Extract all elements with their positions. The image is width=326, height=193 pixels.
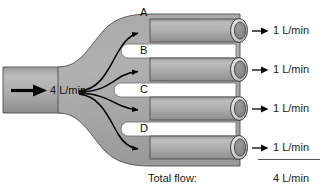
total-flow-label: Total flow: (148, 173, 197, 184)
branch-letter-c: C (140, 84, 148, 95)
figure-canvas: 4 L/min A B C D 1 L/min 1 L/min 1 L/min … (0, 0, 326, 193)
branch-letter-d: D (140, 123, 148, 134)
separator-slot-ab (121, 44, 236, 58)
outlet-arrow-d (252, 145, 269, 152)
separator-slot-cd (121, 122, 236, 136)
branch-tube-b (150, 58, 239, 81)
tube-opening-c (231, 97, 248, 121)
separator-slot-bc (114, 83, 236, 97)
outlet-arrow-icons (252, 28, 269, 152)
outflow-label-c: 1 L/min (273, 103, 309, 114)
branch-tube-d (150, 136, 239, 159)
branch-letter-a: A (140, 7, 147, 18)
outflow-label-d: 1 L/min (273, 142, 309, 153)
branch-letter-b: B (140, 45, 147, 56)
tube-opening-d (231, 136, 248, 160)
tube-opening-a (231, 19, 248, 43)
inlet-flow-label: 4 L/min (50, 85, 86, 96)
outflow-label-b: 1 L/min (273, 64, 309, 75)
outlet-arrow-a (252, 28, 269, 35)
outlet-arrow-b (252, 67, 269, 74)
total-flow-value: 4 L/min (273, 173, 309, 184)
branch-tube-c (150, 97, 239, 120)
tube-opening-b (231, 58, 248, 82)
outlet-arrow-c (252, 106, 269, 113)
outflow-label-a: 1 L/min (273, 25, 309, 36)
branch-tube-a (150, 19, 239, 42)
